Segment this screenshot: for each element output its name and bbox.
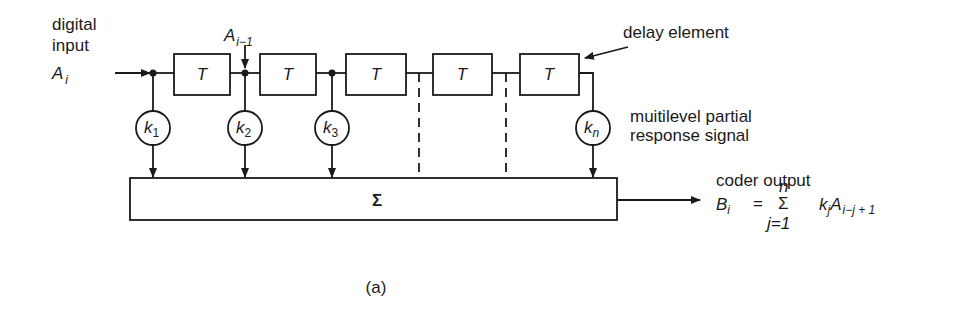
multilevel-label-2: response signal [630, 126, 749, 145]
summer-symbol: Σ [372, 191, 382, 210]
junction-dot [329, 70, 336, 77]
input-symbol: Ai [51, 64, 68, 87]
delay-label-5: T [544, 65, 556, 84]
multilevel-label-1: muitilevel partial [630, 107, 752, 126]
eq-equals: = [753, 194, 763, 213]
coef-label-n: kn [584, 118, 600, 140]
output-label: coder output [716, 171, 811, 190]
coef-label-1: k1 [144, 118, 160, 140]
figure-caption: (a) [366, 278, 387, 297]
eq-lhs: Bi [716, 195, 730, 217]
input-label-input: input [52, 36, 89, 55]
eq-term: kjAi−j + 1 [819, 195, 875, 217]
input-label-digital: digital [52, 15, 96, 34]
tapped-delay-line-diagram: digital input Ai Ai−1 T T T T T k1 k2 k3… [0, 0, 953, 315]
junction-dot [150, 70, 157, 77]
delay-label-3: T [371, 65, 383, 84]
delay-element-pointer [585, 47, 628, 58]
eq-sum: Σ [778, 194, 789, 213]
tap-label: Ai−1 [223, 26, 253, 49]
delay-label-1: T [197, 65, 209, 84]
delay-label-2: T [283, 65, 295, 84]
delay-label-4: T [457, 65, 469, 84]
delay-element-label: delay element [623, 23, 729, 42]
coef-label-3: k3 [323, 118, 339, 140]
eq-upper: n [779, 177, 788, 196]
junction-dot [242, 70, 249, 77]
coef-label-2: k2 [236, 118, 252, 140]
eq-lower: j=1 [765, 214, 790, 233]
